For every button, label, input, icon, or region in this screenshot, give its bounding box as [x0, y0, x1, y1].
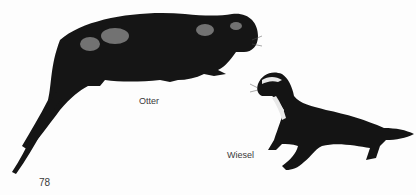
page-number: 78 — [39, 177, 50, 188]
otter-caption: Otter — [139, 96, 159, 106]
book-page: Otter Wiesel 78 — [0, 0, 416, 195]
weasel-caption: Wiesel — [227, 150, 254, 160]
weasel-illustration-icon — [257, 72, 414, 170]
otter-illustration-icon — [0, 0, 416, 195]
